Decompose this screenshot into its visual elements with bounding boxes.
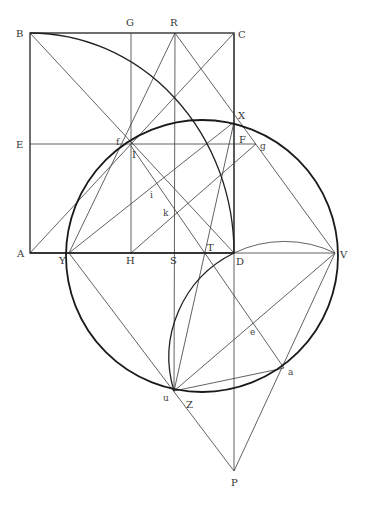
- line-u-V: [174, 253, 335, 391]
- diagram-canvas: BGRCEfIFgXikAYHSTDVeauZP: [0, 0, 365, 506]
- line-R-V: [175, 33, 335, 253]
- line-Y-P: [69, 253, 234, 471]
- point-label-X: X: [238, 110, 246, 121]
- point-label-f: f: [116, 137, 120, 147]
- point-label-k: k: [163, 208, 169, 218]
- point-label-F: F: [239, 134, 246, 145]
- main-circle: [66, 120, 338, 392]
- point-label-u: u: [163, 393, 169, 403]
- point-label-C: C: [238, 29, 246, 40]
- point-label-S: S: [170, 255, 177, 266]
- point-label-Z: Z: [186, 399, 193, 410]
- point-label-P: P: [231, 477, 238, 488]
- point-label-E: E: [16, 139, 23, 150]
- point-label-B: B: [16, 28, 23, 39]
- line-u-a: [174, 368, 284, 391]
- point-label-A: A: [16, 248, 25, 259]
- point-label-i: i: [150, 190, 153, 200]
- point-label-G: G: [126, 17, 134, 28]
- point-label-g: g: [260, 141, 266, 151]
- point-label-R: R: [170, 17, 178, 28]
- point-label-Y: Y: [58, 255, 66, 266]
- geometric-diagram: BGRCEfIFgXikAYHSTDVeauZP: [0, 0, 365, 506]
- line-I-a: [131, 146, 284, 368]
- small-arc-DV: [234, 241, 335, 253]
- point-label-a: a: [288, 367, 294, 377]
- line-Y-R: [69, 33, 175, 253]
- point-label-H: H: [126, 255, 135, 266]
- point-label-D: D: [236, 256, 244, 267]
- point-label-e: e: [250, 327, 255, 337]
- construction-lines: [30, 33, 338, 471]
- point-label-I: I: [132, 149, 136, 160]
- point-label-V: V: [339, 249, 348, 260]
- point-label-T: T: [207, 242, 214, 253]
- line-V-P: [234, 253, 335, 471]
- line-R-u: [174, 33, 175, 391]
